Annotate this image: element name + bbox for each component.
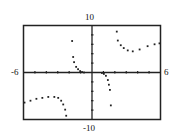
data-point [117,40,119,42]
data-point [79,70,81,72]
data-point [30,100,32,102]
data-point [101,72,103,74]
data-point [41,97,43,99]
axes [24,26,161,120]
data-point [65,115,67,117]
data-point [81,71,83,73]
data-point [71,40,73,42]
data-point [36,98,38,100]
data-point [62,104,64,106]
data-point [77,68,79,70]
data-point [127,50,129,52]
graph-window [0,0,178,138]
branch-upper-right [116,31,160,53]
branch-center [101,72,112,106]
data-point [103,73,105,75]
data-point [105,75,107,77]
data-point [60,100,62,102]
data-point [147,45,149,47]
data-point [73,61,75,63]
branch-upper-left [71,40,85,73]
data-point [108,84,110,86]
data-point [64,109,66,111]
data-point [110,105,112,107]
branch-lower-left [24,96,67,117]
data-point [53,96,55,98]
data-point [116,31,118,33]
data-point [109,89,111,91]
data-point [132,50,134,52]
data-point [123,47,125,49]
data-point [75,66,77,68]
data-point [107,79,109,81]
data-point [72,56,74,58]
data-point [83,72,85,74]
data-point [47,96,49,98]
data-point [139,49,141,51]
data-point [57,97,59,99]
data-point [154,43,156,45]
data-point [120,44,122,46]
